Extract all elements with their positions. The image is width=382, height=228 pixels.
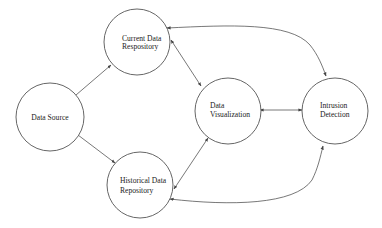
edge-source-to-historical-repo [78,135,115,163]
svg-text:Intrusion: Intrusion [320,101,348,110]
svg-text:Data Source: Data Source [31,113,69,122]
node-label-line: Intrusion [320,101,348,110]
flow-diagram: Data Source Current Data Respository His… [0,0,382,228]
svg-text:Visualization: Visualization [210,110,250,119]
svg-text:Repository: Repository [120,186,154,195]
svg-text:Respository: Respository [122,42,158,51]
node-label-line: Respository [122,42,158,51]
svg-text:Data: Data [210,101,225,110]
svg-text:Detection: Detection [320,110,350,119]
node-label-line: Detection [320,110,350,119]
svg-text:Historical Data: Historical Data [120,176,167,185]
node-label-line: Repository [120,186,154,195]
node-data-visualization: Data Visualization [195,78,261,144]
edge-historical-repo-visualization [174,138,208,189]
edge-current-repo-visualization [171,40,201,86]
node-label-line: Visualization [210,110,250,119]
edge-historical-repo-intrusion-detection-curved [170,146,323,203]
node-label-line: Data [210,101,225,110]
edge-current-repo-intrusion-detection-curved [167,26,326,76]
node-data-source: Data Source [16,83,84,151]
node-intrusion-detection: Intrusion Detection [302,78,368,144]
node-circle [107,152,173,218]
node-label-line: Data Source [31,113,69,122]
edge-source-to-current-repo [76,65,111,95]
node-label-line: Historical Data [120,176,167,185]
node-historical-data-repository: Historical Data Repository [107,152,173,218]
node-current-data-repository: Current Data Respository [104,9,170,75]
